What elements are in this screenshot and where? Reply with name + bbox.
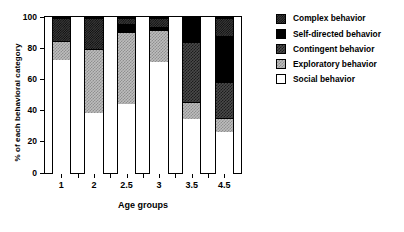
chart-legend: Complex behaviorSelf-directed behaviorCo… [276, 11, 404, 87]
y-axis-tick [40, 79, 45, 80]
bar-stack[interactable] [215, 17, 235, 173]
bar-segment-exploratory[interactable] [216, 118, 234, 132]
x-axis-tick [61, 173, 62, 178]
legend-swatch-contingent [276, 44, 286, 54]
bar-stack[interactable] [52, 17, 72, 173]
bar-stack[interactable] [182, 17, 202, 173]
x-axis-title: Age groups [44, 200, 242, 210]
y-axis-tick [40, 17, 45, 18]
legend-label: Contingent behavior [293, 45, 374, 53]
bar-segment-contingent[interactable] [183, 42, 201, 102]
x-axis-tick-minor [78, 173, 79, 178]
y-axis-tick [40, 173, 45, 174]
x-axis-tick [127, 173, 128, 178]
bar-segment-exploratory[interactable] [150, 30, 168, 62]
legend-swatch-social [276, 74, 286, 84]
x-axis-tick [224, 173, 225, 178]
chart-figure: % of each behavioral category 0204060801… [0, 0, 404, 232]
legend-item[interactable]: Exploratory behavior [276, 57, 404, 72]
legend-item[interactable]: Contingent behavior [276, 41, 404, 56]
y-axis-tick [40, 48, 45, 49]
y-axis-tick-label: 40 [28, 105, 37, 115]
bar-segment-social[interactable] [216, 132, 234, 174]
bar-segment-exploratory[interactable] [85, 49, 103, 113]
bar-segment-self-directed[interactable] [183, 18, 201, 42]
x-axis-tick-label: 3 [157, 180, 162, 190]
x-axis-tick-minor [175, 173, 176, 178]
legend-item[interactable]: Complex behavior [276, 11, 404, 26]
bar-segment-complex[interactable] [53, 18, 71, 41]
y-axis-tick-label: 0 [32, 168, 37, 178]
y-axis-tick [40, 110, 45, 111]
bar-segment-social[interactable] [85, 113, 103, 174]
x-axis-tick [192, 173, 193, 178]
legend-label: Exploratory behavior [293, 60, 377, 68]
bar-segment-self-directed[interactable] [118, 24, 136, 32]
y-axis-tick-label: 80 [28, 43, 37, 53]
bar-segment-social[interactable] [150, 62, 168, 174]
legend-label: Complex behavior [293, 14, 366, 22]
legend-label: Social behavior [293, 75, 355, 83]
bar-segment-contingent[interactable] [216, 82, 234, 118]
legend-label: Self-directed behavior [293, 30, 381, 38]
bar-segment-exploratory[interactable] [118, 32, 136, 104]
bar-segment-exploratory[interactable] [53, 41, 71, 60]
bar-segment-social[interactable] [53, 60, 71, 174]
x-axis-tick-label: 1 [59, 180, 64, 190]
x-axis-tick-label: 2 [91, 180, 96, 190]
plot-area: 020406080100122.533.54.5 [44, 16, 242, 174]
legend-swatch-complex [276, 14, 286, 24]
x-axis-tick-label: 2.5 [120, 180, 133, 190]
plot-inner: 020406080100122.533.54.5 [45, 17, 241, 173]
legend-swatch-self-directed [276, 29, 286, 39]
bar-stack[interactable] [117, 17, 137, 173]
bar-segment-complex[interactable] [85, 18, 103, 49]
x-axis-tick [159, 173, 160, 178]
x-axis-tick-minor [143, 173, 144, 178]
x-axis-tick-minor [208, 173, 209, 178]
legend-swatch-exploratory [276, 59, 286, 69]
y-axis-tick-label: 20 [28, 136, 37, 146]
bar-segment-social[interactable] [118, 104, 136, 174]
y-axis-tick-label: 100 [23, 12, 37, 22]
legend-item[interactable]: Social behavior [276, 72, 404, 87]
y-axis-tick [40, 141, 45, 142]
x-axis-tick-label: 3.5 [185, 180, 198, 190]
bar-stack[interactable] [149, 17, 169, 173]
bar-segment-self-directed[interactable] [216, 36, 234, 82]
bar-segment-complex[interactable] [150, 18, 168, 27]
bar-segment-complex[interactable] [118, 18, 136, 24]
x-axis-tick [94, 173, 95, 178]
y-axis-title: % of each behavioral category [13, 28, 22, 178]
x-axis-tick-minor [110, 173, 111, 178]
bar-segment-complex[interactable] [216, 18, 234, 36]
bar-stack[interactable] [84, 17, 104, 173]
x-axis-tick-label: 4.5 [218, 180, 231, 190]
y-axis-tick-label: 60 [28, 74, 37, 84]
bar-segment-exploratory[interactable] [183, 102, 201, 119]
legend-item[interactable]: Self-directed behavior [276, 26, 404, 41]
bar-segment-social[interactable] [183, 119, 201, 173]
bar-segment-self-directed[interactable] [150, 27, 168, 29]
